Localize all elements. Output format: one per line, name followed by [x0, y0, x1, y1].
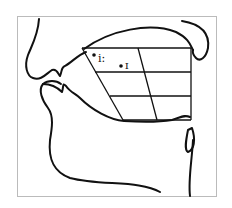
nose-upper-lip: [26, 19, 86, 79]
vowel-points: i: ɪ: [92, 52, 129, 72]
vowel-dot-near-close: [119, 64, 123, 68]
tongue-lower-lip: [43, 84, 190, 122]
vowel-dot-i-long: [92, 53, 96, 57]
head-outline: [26, 19, 208, 196]
palate: [84, 28, 193, 50]
vowel-label-i-long: i:: [98, 52, 105, 65]
jaw-chin-neck: [41, 81, 160, 192]
vowel-label-near-close: ɪ: [125, 59, 129, 72]
grid-central: [138, 48, 157, 120]
vowel-diagram: i: ɪ: [0, 0, 232, 208]
